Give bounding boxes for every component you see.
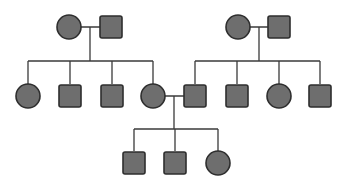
male-individual-icon [184,85,206,107]
female-individual-icon [267,84,291,108]
individuals [16,15,331,175]
pedigree-canvas [0,0,344,185]
pedigree-chart [0,0,344,185]
male-individual-icon [59,85,81,107]
female-individual-icon [57,15,81,39]
male-individual-icon [101,85,123,107]
male-individual-icon [164,152,186,174]
male-individual-icon [123,152,145,174]
female-individual-icon [16,84,40,108]
male-individual-icon [309,85,331,107]
male-individual-icon [100,16,122,38]
female-individual-icon [226,15,250,39]
female-individual-icon [206,151,230,175]
female-individual-icon [141,84,165,108]
male-individual-icon [268,16,290,38]
male-individual-icon [226,85,248,107]
